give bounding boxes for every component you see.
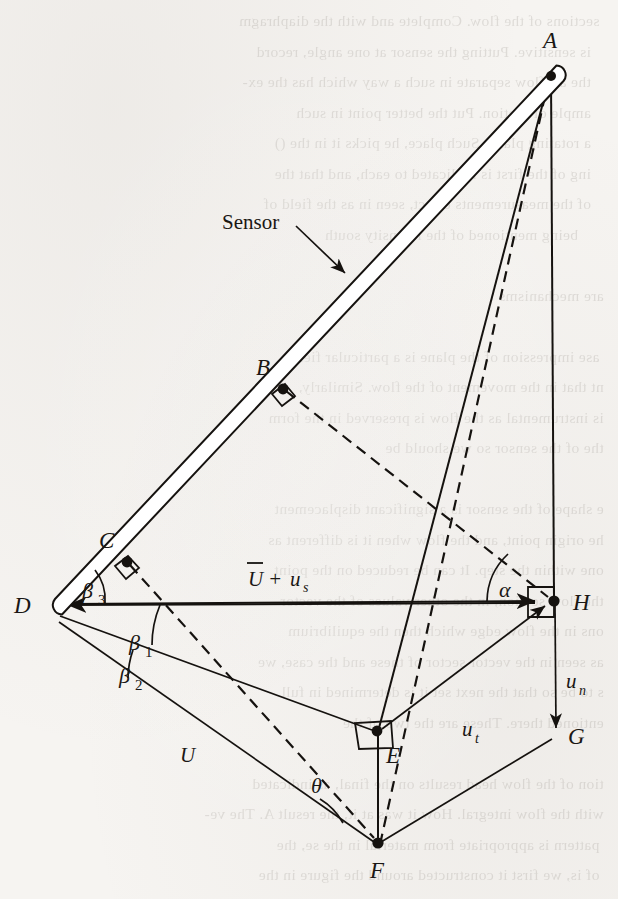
edge-F-G — [381, 739, 552, 842]
angle-label-beta2: β 2 — [118, 663, 143, 693]
right-angle-markers — [115, 384, 554, 749]
geometry-diagram: A B C D E F G H U + u s U u t — [0, 0, 618, 899]
vector-label-us-subscript: s — [303, 580, 309, 595]
dashed-edge-B-H — [286, 391, 548, 597]
point-label-G: G — [568, 724, 585, 749]
vector-label-U: U — [180, 743, 197, 767]
dashed-edge-C-F — [130, 565, 374, 838]
figure-root: sections of the flow. Complete and with … — [0, 0, 618, 899]
vector-label-plus-sign: + — [268, 567, 282, 591]
point-label-group: A B C D E F G H — [13, 28, 591, 883]
sensor-callout-leader — [296, 226, 345, 273]
edge-D-F — [59, 622, 374, 842]
angle-beta1-subscript: 1 — [145, 644, 153, 660]
angle-label-group: β 3 β 1 β 2 α θ — [81, 577, 511, 798]
point-dot-A — [546, 71, 556, 81]
edge-A-H — [551, 76, 554, 598]
point-dot-F — [372, 837, 383, 848]
sensor-callout: Sensor — [222, 210, 345, 273]
vector-label-group: U + u s U u t u n — [180, 563, 586, 767]
angle-beta1-base: β — [128, 630, 140, 655]
arc-theta — [320, 799, 343, 823]
vector-label-ut-base: u — [462, 717, 473, 741]
point-dot-H — [548, 595, 559, 606]
point-label-B: B — [256, 355, 270, 380]
vector-label-ut-subscript: t — [475, 731, 480, 746]
vector-label-un-subscript: n — [579, 683, 586, 698]
point-label-F: F — [369, 858, 385, 883]
vector-label-us-base: u — [290, 567, 301, 591]
point-label-D: D — [13, 593, 31, 618]
point-dot-C — [122, 557, 133, 568]
vector-label-U-base: U — [248, 567, 265, 591]
vector-label-un: u n — [566, 669, 586, 698]
point-dot-B — [278, 384, 289, 395]
angle-label-theta: θ — [311, 773, 322, 798]
point-label-A: A — [541, 28, 558, 53]
angle-beta3-base: β — [81, 578, 93, 603]
vector-label-U-plus-us: U + u s — [247, 563, 309, 595]
solid-edge-group — [59, 76, 556, 842]
vector-label-un-base: u — [566, 669, 577, 693]
point-label-C: C — [99, 528, 115, 553]
point-dot-E — [372, 726, 383, 737]
sensor-rod — [53, 66, 566, 615]
sensor-callout-label: Sensor — [222, 210, 279, 234]
vector-label-ut: u t — [462, 717, 480, 746]
point-label-H: H — [572, 590, 591, 615]
angle-beta3-subscript: 3 — [98, 592, 106, 608]
angle-beta2-subscript: 2 — [135, 677, 143, 693]
edge-D-E — [60, 616, 372, 730]
edge-H-G-un — [555, 606, 556, 728]
arc-beta1 — [152, 605, 160, 645]
angle-label-alpha: α — [499, 577, 511, 602]
angle-beta2-base: β — [118, 663, 130, 688]
point-label-E: E — [385, 743, 400, 768]
